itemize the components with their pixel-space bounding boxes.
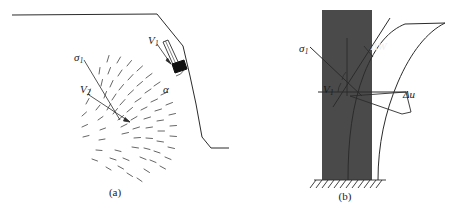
figure-root: σ1 V1 V2 α (a): [0, 0, 460, 212]
label-sigma-1-panel-b: σ1: [299, 43, 308, 56]
label-delta-u-panel-b: Δu: [403, 89, 415, 100]
rock-bolt: [163, 40, 187, 73]
fixed-support-hatching: [310, 180, 386, 188]
panel-b: σ1 V1 ΔW Δu (b): [230, 0, 460, 212]
slope-outline: [12, 14, 229, 148]
label-delta-w-panel-b: ΔW: [371, 41, 387, 52]
label-v-1-panel-b: V1: [323, 84, 334, 97]
caption-panel-b: (b): [230, 190, 460, 202]
label-sigma-1-panel-a: σ1: [74, 52, 83, 65]
deflected-top-cap: [405, 23, 445, 24]
failure-fan-dashes: [82, 56, 177, 182]
panel-b-drawing: [230, 0, 460, 212]
caption-panel-a: (a): [0, 186, 230, 198]
label-alpha-panel-a: α: [163, 84, 169, 95]
label-v-2-panel-a: V2: [80, 84, 91, 97]
label-v-1-panel-a: V1: [148, 35, 159, 48]
panel-a-drawing: [0, 0, 230, 212]
v2-leader-line: [89, 95, 130, 122]
panel-a: σ1 V1 V2 α (a): [0, 0, 230, 212]
